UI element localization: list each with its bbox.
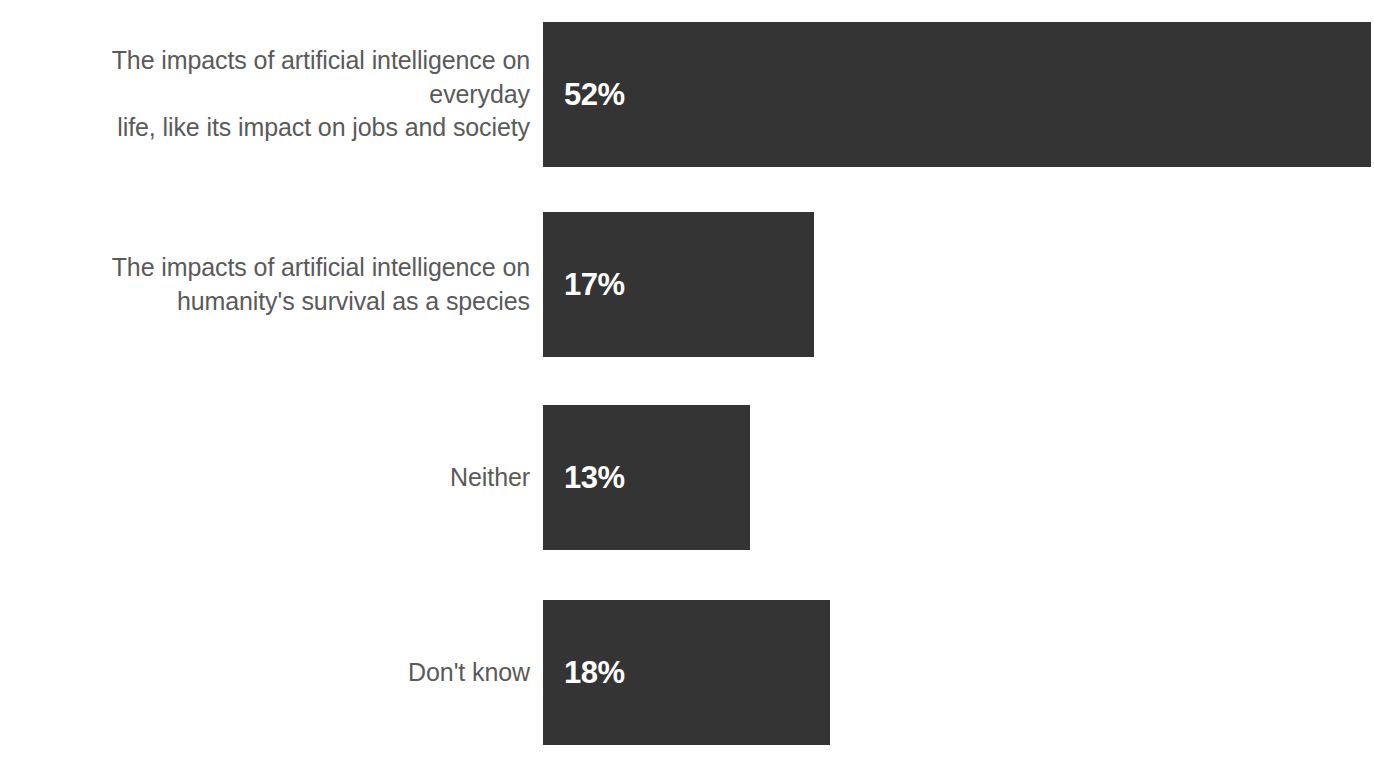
bar[interactable]: 13% — [543, 405, 750, 550]
bar-track: 18% — [543, 600, 830, 745]
bar-track: 17% — [543, 212, 814, 357]
bar[interactable]: 52% — [543, 22, 1371, 167]
bar-category-label: The impacts of artificial intelligence o… — [10, 251, 530, 318]
bar[interactable]: 17% — [543, 212, 814, 357]
bar-value-label: 13% — [564, 460, 625, 496]
bar-row: Don't know 18% — [0, 600, 1374, 745]
bar-value-label: 52% — [564, 77, 625, 113]
bar-row: The impacts of artificial intelligence o… — [0, 22, 1374, 167]
bar-row: The impacts of artificial intelligence o… — [0, 212, 1374, 357]
bar-category-label: Neither — [10, 461, 530, 495]
bar-track: 13% — [543, 405, 750, 550]
bar-category-label: The impacts of artificial intelligence o… — [10, 44, 530, 145]
bar-row: Neither 13% — [0, 405, 1374, 550]
bar-value-label: 18% — [564, 655, 625, 691]
bar[interactable]: 18% — [543, 600, 830, 745]
horizontal-bar-chart: The impacts of artificial intelligence o… — [0, 0, 1374, 763]
bar-track: 52% — [543, 22, 1371, 167]
bar-category-label: Don't know — [10, 656, 530, 690]
bar-value-label: 17% — [564, 267, 625, 303]
